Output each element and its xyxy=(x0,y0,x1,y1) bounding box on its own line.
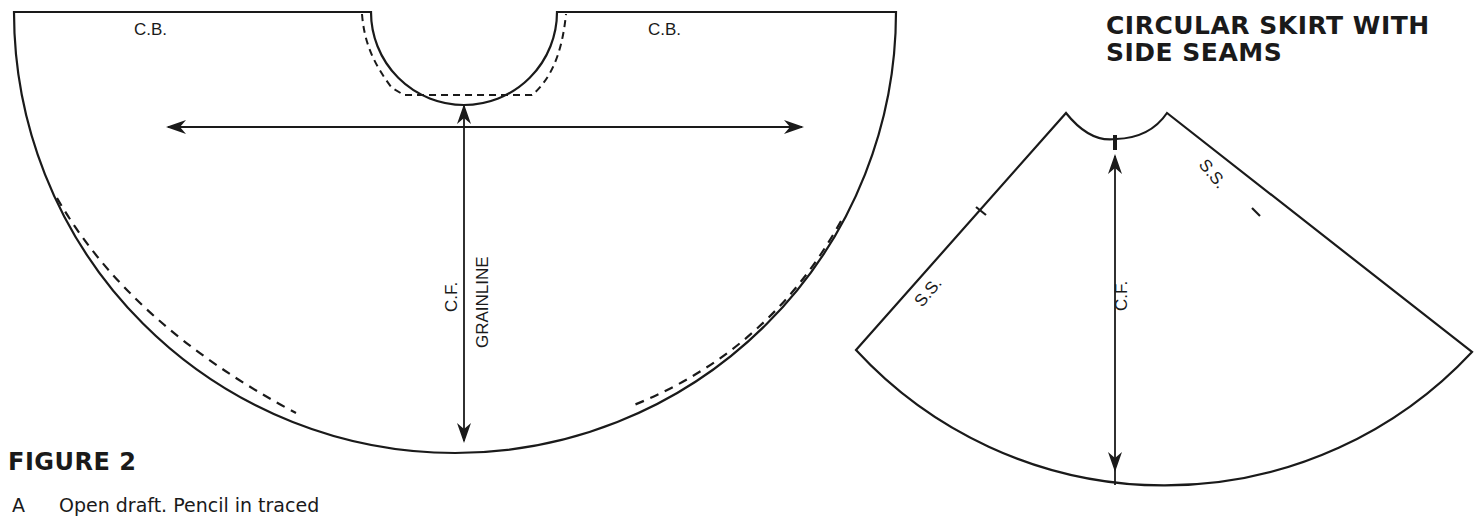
right-pattern-title: CIRCULAR SKIRT WITH SIDE SEAMS xyxy=(1106,12,1474,66)
caption-text: Open draft. Pencil in traced xyxy=(59,494,319,516)
caption-marker: A xyxy=(12,494,25,516)
figure-caption: AOpen draft. Pencil in traced xyxy=(12,494,319,516)
right-pattern-title-line2: SIDE SEAMS xyxy=(1106,39,1474,66)
left-hem-dashed-line-left xyxy=(57,198,296,413)
cb-label-right: C.B. xyxy=(648,20,681,39)
right-side-seam-notch xyxy=(1252,208,1260,216)
right-pattern-piece: C.F. S.S. S.S. xyxy=(856,113,1472,485)
cf-label-left: C.F. xyxy=(442,282,461,312)
right-piece-outline xyxy=(856,113,1472,485)
ss-label-right: S.S. xyxy=(1195,155,1230,192)
left-hem-dashed-line-right xyxy=(634,221,841,405)
cf-label-right: C.F. xyxy=(1112,281,1131,311)
ss-label-left: S.S. xyxy=(911,274,946,311)
figure-title: FIGURE 2 xyxy=(8,448,136,476)
left-pattern-piece: C.B. C.B. C.F. GRAINLINE xyxy=(14,12,896,453)
right-pattern-title-line1: CIRCULAR SKIRT WITH xyxy=(1106,12,1474,39)
grainline-label: GRAINLINE xyxy=(473,256,492,348)
cb-label-left: C.B. xyxy=(134,20,167,39)
left-waist-dashed-line xyxy=(362,14,566,95)
left-piece-outline xyxy=(14,12,896,453)
